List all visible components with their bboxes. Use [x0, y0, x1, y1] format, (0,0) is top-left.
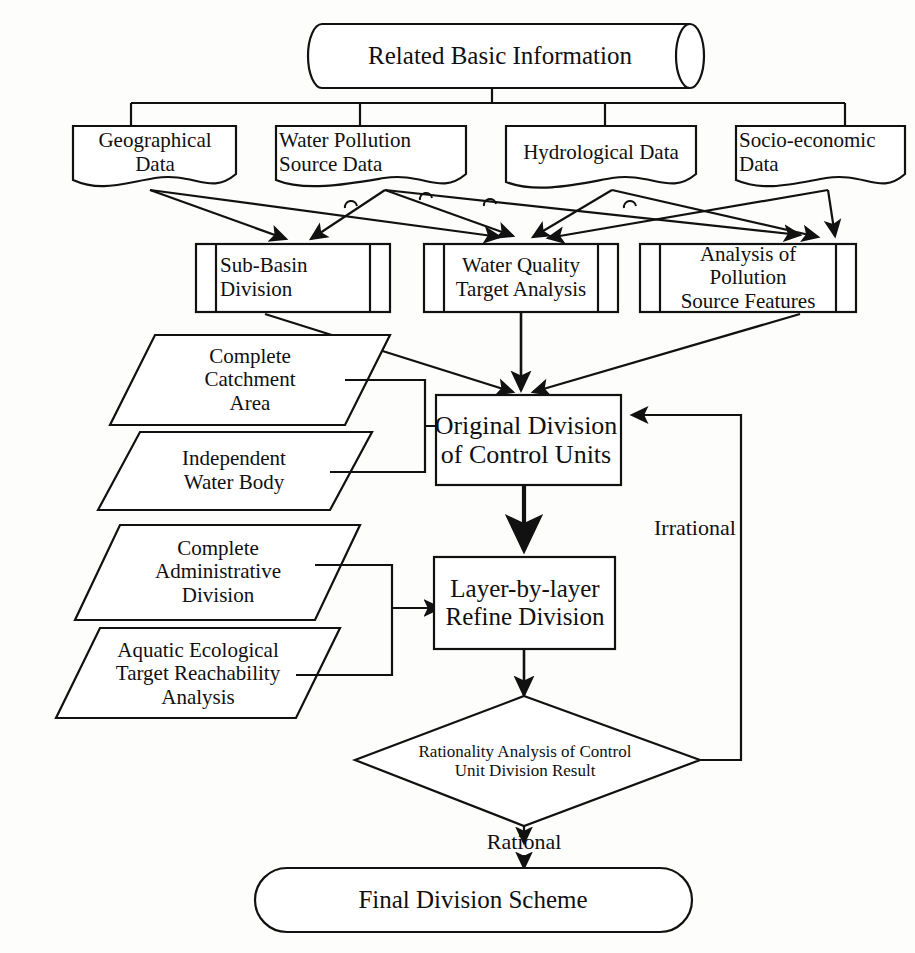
node-original-division-shape	[436, 395, 621, 485]
node-final-shape	[255, 868, 692, 932]
flowchart-graphics	[0, 0, 915, 953]
edge-label-irrational: Irrational	[654, 515, 736, 541]
node-source-shape	[308, 24, 704, 88]
node-criteria-lower-0-shape	[75, 525, 360, 620]
node-refine-division-shape	[434, 557, 615, 649]
node-analysis-2-shape	[640, 244, 856, 312]
edge-label-rational: Rational	[468, 829, 580, 855]
node-input-3-shape	[736, 126, 905, 186]
node-input-2-shape	[506, 126, 696, 188]
node-analysis-0-shape	[196, 244, 390, 312]
node-input-0-shape	[73, 126, 236, 186]
node-decision-shape	[355, 696, 700, 826]
node-input-1-shape	[276, 126, 466, 186]
node-analysis-1-shape	[424, 244, 618, 312]
flowchart-canvas: Related Basic Information Geographical D…	[0, 0, 915, 953]
node-criteria-lower-1-shape	[56, 628, 340, 718]
